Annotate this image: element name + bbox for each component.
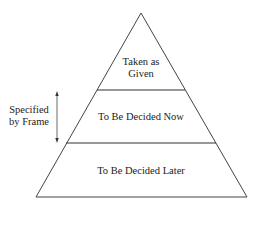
level-decided-now: To Be Decided Now <box>81 111 201 123</box>
annotation-line: by Frame <box>5 116 53 128</box>
level-label-line: Given <box>111 68 171 80</box>
annotation-line: Specified <box>5 104 53 116</box>
level-decided-later: To Be Decided Later <box>66 165 216 177</box>
level-taken-as-given: Taken as Given <box>111 56 171 80</box>
side-annotation: Specified by Frame <box>5 104 53 128</box>
level-label-line: Taken as <box>111 56 171 68</box>
double-arrow-icon <box>55 91 58 143</box>
